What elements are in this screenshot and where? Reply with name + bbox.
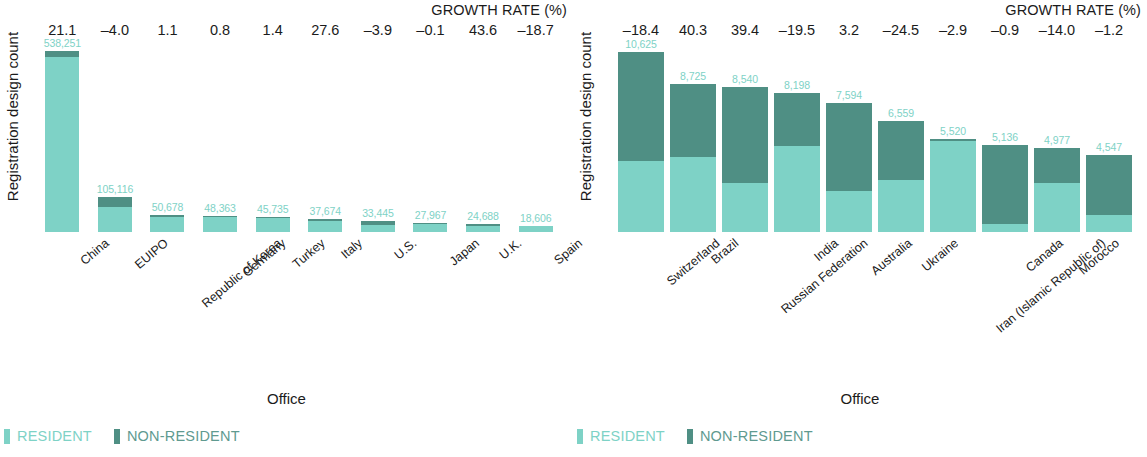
- bar-group[interactable]: 10,625: [615, 44, 667, 232]
- bar-segment-non-resident[interactable]: [982, 145, 1028, 224]
- bar-stack[interactable]: [256, 217, 290, 232]
- growth-rate-value: –1.2: [1083, 22, 1135, 38]
- bar-group[interactable]: 538,251: [36, 44, 89, 232]
- bar-group[interactable]: 18,606: [509, 44, 562, 232]
- bar-group[interactable]: 37,674: [299, 44, 352, 232]
- legend-label-resident: RESIDENT: [17, 428, 92, 444]
- bar-segment-resident[interactable]: [826, 191, 872, 232]
- legend-item-non-resident-left: NON-RESIDENT: [114, 428, 240, 444]
- growth-rate-value: –18.4: [615, 22, 667, 38]
- y-axis-title-left: Registration design count: [2, 0, 24, 232]
- bar-stack[interactable]: [308, 219, 342, 232]
- bar-value-label: 10,625: [625, 38, 657, 50]
- x-tick-labels-left: ChinaEUIPORepublic of KoreaGermanyTurkey…: [36, 236, 562, 356]
- bar-stack[interactable]: [519, 226, 553, 232]
- bar-group[interactable]: 4,977: [1031, 44, 1083, 232]
- legend-item-resident-left: RESIDENT: [4, 428, 92, 444]
- bar-segment-non-resident[interactable]: [878, 121, 924, 180]
- bar-segment-resident[interactable]: [1034, 183, 1080, 232]
- bar-group[interactable]: 45,735: [246, 44, 299, 232]
- bar-group[interactable]: 105,116: [89, 44, 142, 232]
- bar-segment-non-resident[interactable]: [670, 84, 716, 157]
- x-tick-label: China: [78, 236, 112, 268]
- bar-segment-resident[interactable]: [256, 218, 290, 232]
- bar-value-label: 4,977: [1044, 134, 1070, 146]
- legend-right: RESIDENT NON-RESIDENT: [577, 428, 813, 444]
- bar-group[interactable]: 7,594: [823, 44, 875, 232]
- x-axis-title-right: Office: [573, 390, 1147, 407]
- bar-segment-resident[interactable]: [618, 161, 664, 232]
- bar-segment-resident[interactable]: [98, 207, 132, 232]
- bar-group[interactable]: 8,725: [667, 44, 719, 232]
- bar-segment-resident[interactable]: [878, 180, 924, 233]
- bar-segment-non-resident[interactable]: [618, 52, 664, 161]
- bar-value-label: 50,678: [152, 201, 184, 213]
- plot-area-left: 538,251105,11650,67848,36345,73537,67433…: [36, 44, 562, 232]
- x-tick-label: Ukraine: [919, 236, 961, 274]
- bar-segment-resident[interactable]: [1086, 215, 1132, 232]
- bar-group[interactable]: 5,136: [979, 44, 1031, 232]
- legend-swatch-resident-icon: [577, 429, 583, 444]
- bar-value-label: 8,725: [680, 70, 706, 82]
- growth-rate-value: 39.4: [719, 22, 771, 38]
- bar-segment-resident[interactable]: [670, 157, 716, 232]
- bar-stack[interactable]: [722, 87, 768, 232]
- bar-stack[interactable]: [670, 84, 716, 232]
- legend-item-non-resident-right: NON-RESIDENT: [687, 428, 813, 444]
- bar-segment-resident[interactable]: [413, 224, 447, 232]
- bar-segment-non-resident[interactable]: [1086, 155, 1132, 215]
- x-axis-title-left: Office: [0, 390, 573, 407]
- bar-value-label: 24,688: [467, 210, 499, 222]
- bar-stack[interactable]: [878, 121, 924, 232]
- bar-stack[interactable]: [413, 223, 447, 232]
- bar-stack[interactable]: [774, 93, 820, 232]
- bar-stack[interactable]: [45, 51, 79, 232]
- bar-group[interactable]: 50,678: [141, 44, 194, 232]
- bar-segment-resident[interactable]: [982, 224, 1028, 232]
- legend-swatch-non-resident-icon: [687, 429, 693, 444]
- bar-group[interactable]: 24,688: [457, 44, 510, 232]
- bar-segment-resident[interactable]: [361, 225, 395, 232]
- bar-stack[interactable]: [618, 52, 664, 232]
- bar-segment-non-resident[interactable]: [98, 197, 132, 207]
- plot-area-right: 10,6258,7258,5408,1987,5946,5595,5205,13…: [615, 44, 1135, 232]
- bar-segment-non-resident[interactable]: [722, 87, 768, 183]
- bar-group[interactable]: 27,967: [404, 44, 457, 232]
- bar-stack[interactable]: [826, 103, 872, 232]
- bar-stack[interactable]: [203, 216, 237, 232]
- bar-segment-resident[interactable]: [203, 217, 237, 232]
- bar-stack[interactable]: [1034, 148, 1080, 232]
- bar-segment-non-resident[interactable]: [1034, 148, 1080, 183]
- bar-segment-resident[interactable]: [519, 226, 553, 232]
- bar-stack[interactable]: [982, 145, 1028, 232]
- bar-stack[interactable]: [361, 221, 395, 232]
- x-tick-label: U.K.: [497, 236, 525, 262]
- bar-stack[interactable]: [1086, 155, 1132, 232]
- bar-stack[interactable]: [930, 139, 976, 232]
- x-tick-labels-right: SwitzerlandBrazilRussian FederationIndia…: [615, 236, 1135, 356]
- chart-panel-right: GROWTH RATE (%) –18.440.339.4–19.53.2–24…: [573, 0, 1147, 457]
- bar-group[interactable]: 8,198: [771, 44, 823, 232]
- bar-segment-non-resident[interactable]: [826, 103, 872, 191]
- bar-segment-resident[interactable]: [466, 226, 500, 232]
- bar-segment-non-resident[interactable]: [774, 93, 820, 145]
- bar-segment-resident[interactable]: [45, 57, 79, 232]
- bar-group[interactable]: 5,520: [927, 44, 979, 232]
- bar-group[interactable]: 33,445: [352, 44, 405, 232]
- bar-group[interactable]: 48,363: [194, 44, 247, 232]
- growth-rate-value: –4.0: [89, 22, 142, 38]
- bar-stack[interactable]: [466, 224, 500, 232]
- bar-group[interactable]: 6,559: [875, 44, 927, 232]
- bar-segment-resident[interactable]: [308, 221, 342, 232]
- bar-segment-resident[interactable]: [150, 217, 184, 232]
- bar-stack[interactable]: [150, 215, 184, 232]
- legend-label-resident: RESIDENT: [590, 428, 665, 444]
- bar-segment-resident[interactable]: [930, 141, 976, 232]
- bar-stack[interactable]: [98, 197, 132, 232]
- y-axis-title-text-right: Registration design count: [578, 31, 595, 200]
- bar-group[interactable]: 4,547: [1083, 44, 1135, 232]
- bar-segment-resident[interactable]: [774, 146, 820, 232]
- legend-label-non-resident: NON-RESIDENT: [700, 428, 813, 444]
- bar-segment-resident[interactable]: [722, 183, 768, 232]
- bar-group[interactable]: 8,540: [719, 44, 771, 232]
